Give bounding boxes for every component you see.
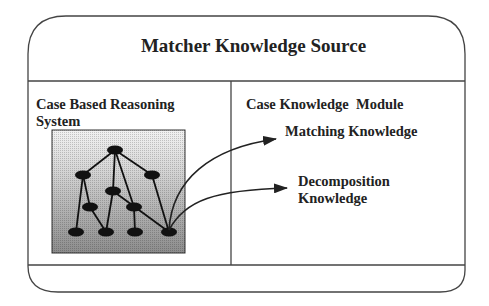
- arrow-to-decomposition-knowledge: [169, 188, 287, 230]
- decomposition-line1: Decomposition: [298, 173, 390, 190]
- matching-knowledge-label: Matching Knowledge: [285, 123, 418, 140]
- cbr-label-line2: System: [36, 113, 175, 130]
- cbr-system-label: Case Based Reasoning System: [36, 96, 175, 129]
- tree-graph-icon: [52, 130, 185, 253]
- decomposition-knowledge-label: Decomposition Knowledge: [298, 173, 390, 206]
- cbr-label-line1: Case Based Reasoning: [36, 96, 175, 113]
- decomposition-line2: Knowledge: [298, 190, 390, 207]
- case-knowledge-module-label: Case Knowledge Module: [246, 96, 403, 113]
- diagram-title: Matcher Knowledge Source: [0, 35, 489, 57]
